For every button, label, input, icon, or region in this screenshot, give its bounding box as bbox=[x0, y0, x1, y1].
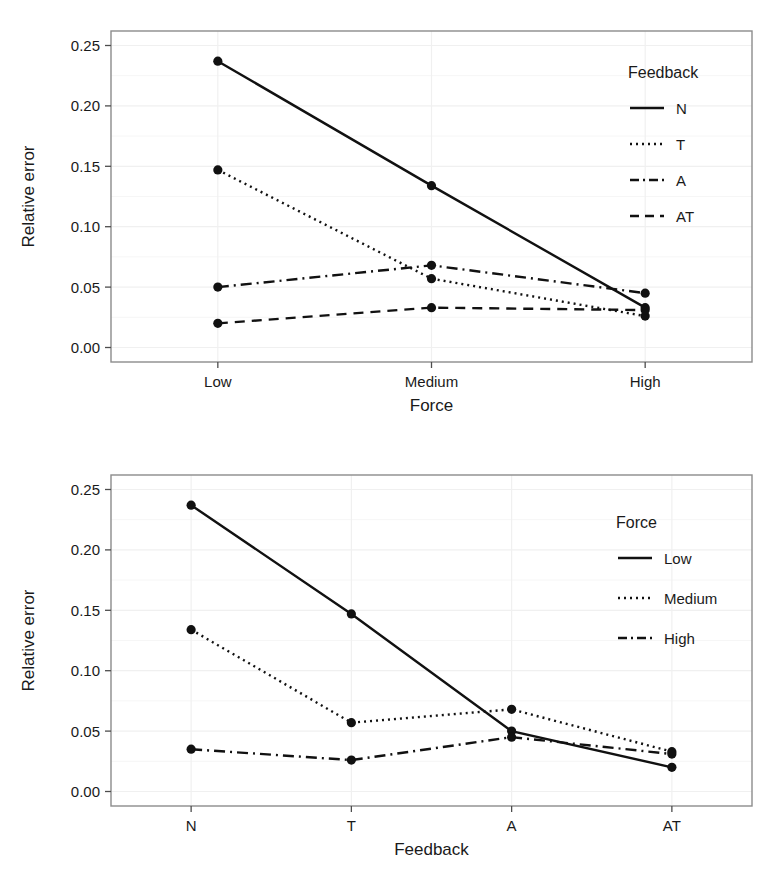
data-point bbox=[187, 501, 196, 510]
data-point bbox=[213, 283, 222, 292]
x-tick-label: Low bbox=[204, 373, 232, 390]
x-tick-label: Medium bbox=[405, 373, 458, 390]
y-tick-label: 0.00 bbox=[71, 339, 100, 356]
chart-panel-bottom: 0.000.050.100.150.200.25NTAATFeedbackRel… bbox=[0, 444, 771, 888]
data-point bbox=[347, 609, 356, 618]
data-point bbox=[667, 749, 676, 758]
y-axis-title: Relative error bbox=[19, 589, 38, 691]
y-tick-label: 0.20 bbox=[71, 97, 100, 114]
data-point bbox=[507, 733, 516, 742]
legend-item-label: Medium bbox=[664, 590, 717, 607]
data-point bbox=[347, 755, 356, 764]
y-axis-title: Relative error bbox=[19, 145, 38, 247]
x-axis-title: Feedback bbox=[394, 840, 469, 859]
x-tick-label: N bbox=[186, 817, 197, 834]
y-axis: 0.000.050.100.150.200.25 bbox=[71, 37, 111, 356]
data-point bbox=[213, 165, 222, 174]
legend-item-label: Low bbox=[664, 550, 692, 567]
data-point bbox=[507, 705, 516, 714]
x-tick-label: AT bbox=[663, 817, 681, 834]
data-point bbox=[427, 274, 436, 283]
x-axis: NTAAT bbox=[186, 806, 681, 834]
data-point bbox=[427, 181, 436, 190]
data-point bbox=[213, 57, 222, 66]
y-tick-label: 0.10 bbox=[71, 662, 100, 679]
plot-area-bottom: 0.000.050.100.150.200.25NTAATFeedbackRel… bbox=[0, 444, 771, 888]
y-tick-label: 0.25 bbox=[71, 37, 100, 54]
legend-item-label: High bbox=[664, 630, 695, 647]
x-tick-label: High bbox=[630, 373, 661, 390]
data-point bbox=[667, 763, 676, 772]
legend-item-label: T bbox=[676, 136, 685, 153]
x-tick-label: T bbox=[347, 817, 356, 834]
plot-area-top: 0.000.050.100.150.200.25LowMediumHighFor… bbox=[0, 0, 771, 444]
legend-item-label: A bbox=[676, 172, 686, 189]
x-axis: LowMediumHigh bbox=[204, 362, 661, 390]
chart-panel-top: 0.000.050.100.150.200.25LowMediumHighFor… bbox=[0, 0, 771, 444]
data-point bbox=[641, 305, 650, 314]
legend-title: Force bbox=[616, 514, 657, 531]
y-tick-label: 0.15 bbox=[71, 602, 100, 619]
data-point bbox=[347, 718, 356, 727]
x-tick-label: A bbox=[507, 817, 517, 834]
data-point bbox=[427, 261, 436, 270]
legend-item-label: N bbox=[676, 100, 687, 117]
legend-title: Feedback bbox=[628, 64, 699, 81]
data-point bbox=[187, 745, 196, 754]
data-point bbox=[427, 303, 436, 312]
y-tick-label: 0.20 bbox=[71, 541, 100, 558]
x-axis-title: Force bbox=[410, 396, 453, 415]
data-point bbox=[641, 289, 650, 298]
y-tick-label: 0.10 bbox=[71, 218, 100, 235]
data-point bbox=[213, 319, 222, 328]
y-axis: 0.000.050.100.150.200.25 bbox=[71, 481, 111, 800]
y-tick-label: 0.00 bbox=[71, 783, 100, 800]
legend-item-label: AT bbox=[676, 208, 694, 225]
y-tick-label: 0.25 bbox=[71, 481, 100, 498]
y-tick-label: 0.05 bbox=[71, 279, 100, 296]
data-point bbox=[187, 625, 196, 634]
figure-container: 0.000.050.100.150.200.25LowMediumHighFor… bbox=[0, 0, 771, 888]
y-tick-label: 0.15 bbox=[71, 158, 100, 175]
y-tick-label: 0.05 bbox=[71, 723, 100, 740]
